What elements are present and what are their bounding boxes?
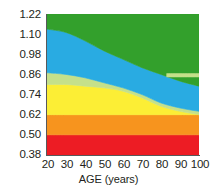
x-tick-label: 60 <box>118 158 130 170</box>
x-tick-label: 20 <box>42 158 54 170</box>
x-axis-title: AGE (years) <box>0 173 217 185</box>
y-tick-label: 1.10 <box>19 29 41 41</box>
x-axis-line <box>46 155 200 156</box>
x-tick-label: 90 <box>175 158 187 170</box>
x-tick-label: 40 <box>80 158 92 170</box>
y-tick-label: 0.50 <box>19 129 41 141</box>
band-plot <box>47 14 199 155</box>
band-red <box>47 135 199 155</box>
bands-group <box>47 14 199 155</box>
light-green-upper-right-wedge <box>167 74 199 77</box>
y-tick-label: 0.62 <box>19 109 41 121</box>
x-tick-label: 80 <box>156 158 168 170</box>
band-orange <box>47 115 199 135</box>
x-tick-label: 70 <box>137 158 149 170</box>
y-tick-label: 0.74 <box>19 89 41 101</box>
x-tick-label: 50 <box>99 158 111 170</box>
y-tick-label: 1.22 <box>19 9 41 21</box>
x-tick-label: 100 <box>191 158 210 170</box>
y-tick-label: 0.98 <box>19 49 41 61</box>
x-tick-label: 30 <box>61 158 73 170</box>
plot-area <box>47 14 199 155</box>
y-tick-label: 0.86 <box>19 69 41 81</box>
x-axis: 20 30 40 50 60 70 80 90 100 <box>0 158 217 174</box>
chart-root: 1.22 1.10 0.98 0.86 0.74 0.62 0.50 0.38 … <box>0 0 217 190</box>
